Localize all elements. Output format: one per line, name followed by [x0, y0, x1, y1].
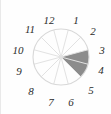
hour-label-3: 3 — [94, 45, 110, 56]
hour-label-11: 11 — [22, 24, 38, 35]
hour-label-4: 4 — [93, 65, 109, 76]
hour-label-7: 7 — [43, 97, 59, 108]
hour-label-8: 8 — [23, 86, 39, 97]
hour-label-6: 6 — [63, 97, 79, 108]
hour-label-1: 1 — [68, 15, 84, 26]
hour-label-9: 9 — [11, 66, 27, 77]
hour-label-2: 2 — [85, 26, 101, 37]
hour-label-12: 12 — [41, 15, 57, 26]
dial-group — [33, 29, 89, 85]
hour-label-10: 10 — [10, 45, 26, 56]
clock-face-diagram: 123456789101112 — [0, 0, 111, 114]
hour-label-5: 5 — [83, 85, 99, 96]
